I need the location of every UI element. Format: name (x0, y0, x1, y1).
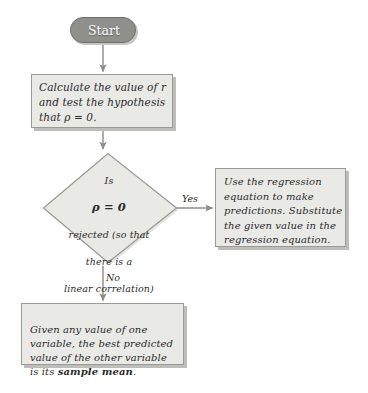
process-node-regression-label: Use the regression equation to make pred… (224, 175, 344, 248)
flowchart-diagram: Start Calculate the value of r and test … (0, 0, 368, 393)
sample-mean-text-after: . (133, 366, 136, 377)
edge-label-yes: Yes (182, 193, 198, 204)
process-node-calculate-label: Calculate the value of r and test the hy… (39, 80, 171, 125)
process-node-calculate: Calculate the value of r and test the hy… (31, 74, 173, 128)
decision-node-label: Is ρ = 0 rejected (so that there is a li… (50, 160, 168, 322)
decision-node: Is ρ = 0 rejected (so that there is a li… (40, 150, 182, 266)
process-node-regression: Use the regression equation to make pred… (215, 168, 346, 247)
process-node-sample-mean: Given any value of one variable, the bes… (21, 303, 184, 365)
decision-line-2: ρ = 0 (92, 200, 126, 214)
decision-line-3: rejected (so that (68, 229, 149, 240)
start-node-label: Start (71, 18, 137, 44)
edge-label-no: No (106, 272, 120, 283)
decision-line-4: there is a (86, 256, 132, 267)
start-node: Start (70, 17, 136, 43)
sample-mean-emphasis: sample mean (58, 366, 133, 377)
process-node-sample-mean-label: Given any value of one variable, the bes… (30, 309, 182, 379)
decision-line-5: linear correlation) (64, 283, 154, 294)
decision-line-1: Is (105, 175, 114, 186)
